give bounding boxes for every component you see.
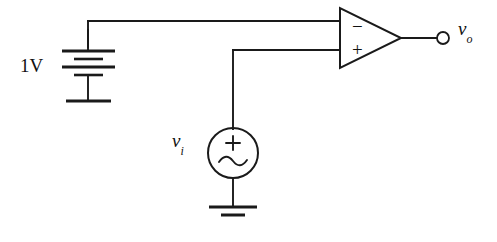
dc-voltage-source-battery <box>62 30 115 101</box>
battery-value-label: 1V <box>20 56 43 75</box>
output-terminal-label: vo <box>458 19 472 42</box>
input-source-label: vi <box>172 131 184 154</box>
wire-acsource-to-noninverting-input <box>233 50 340 128</box>
ac-voltage-source <box>208 128 258 207</box>
opamp-noninverting-sign: + <box>352 40 363 59</box>
wire-battery-to-inverting-input <box>88 21 341 47</box>
output-subscript: o <box>466 32 472 46</box>
schematic-canvas <box>0 0 497 242</box>
input-source-subscript: i <box>180 144 183 158</box>
output-terminal-node <box>437 32 449 44</box>
circuit-diagram: − + 1V vi vo <box>0 0 497 242</box>
operational-amplifier <box>340 8 401 68</box>
opamp-inverting-sign: − <box>352 17 363 36</box>
ground-symbol-ac-source <box>209 207 257 215</box>
